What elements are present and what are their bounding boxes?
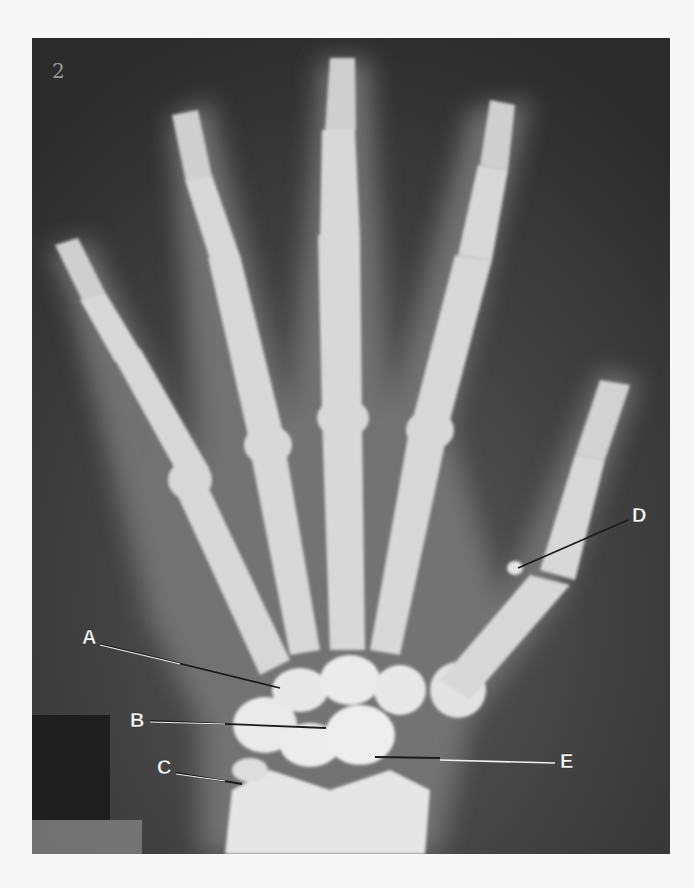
film-corner-mark: 2 bbox=[52, 59, 65, 83]
hand-xray-image: 2 A B C D E bbox=[32, 38, 670, 854]
label-d-text: D bbox=[632, 504, 646, 526]
xray-figure: 2 A B C D E bbox=[32, 38, 670, 854]
film-marker-block bbox=[32, 715, 110, 820]
label-e-text: E bbox=[560, 750, 573, 772]
label-c-text: C bbox=[157, 756, 171, 778]
label-b-text: B bbox=[130, 709, 144, 731]
label-a-text: A bbox=[82, 626, 96, 648]
